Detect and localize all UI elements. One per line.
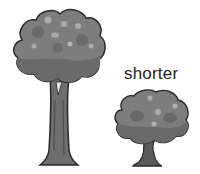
short-tree	[115, 90, 188, 166]
trees-graphic	[0, 0, 200, 174]
tall-tree	[14, 10, 105, 165]
shorter-label: shorter	[124, 64, 178, 84]
illustration: shorter	[0, 0, 200, 174]
